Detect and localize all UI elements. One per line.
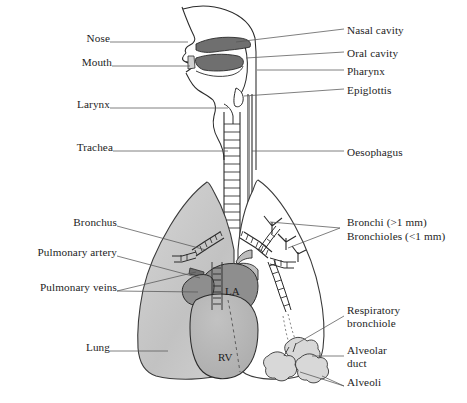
larynx-outline [224, 104, 233, 124]
alveolar-cluster-lower-right [296, 354, 329, 383]
chin-jaw-outline [186, 73, 215, 116]
alveolar-cluster-lower-left [264, 352, 297, 381]
label-nose: Nose [87, 32, 110, 45]
nasal-cavity-shape [196, 37, 251, 52]
leader-alveoli-b [322, 376, 344, 386]
neck-front-outline [213, 116, 224, 160]
epiglottis-shape [234, 88, 243, 107]
label-bronchioles: Bronchioles (<1 mm) [347, 230, 445, 243]
trachea-cartilage-rings [224, 124, 240, 228]
label-bronchus: Bronchus [73, 216, 117, 229]
head-profile-group [182, 6, 256, 170]
right-ventricle-shape [190, 294, 258, 379]
label-alveoli: Alveoli [347, 376, 381, 389]
label-pharynx: Pharynx [347, 65, 385, 78]
respiratory-system-figure: Nose Mouth Larynx Trachea Bronchus Pulmo… [0, 0, 467, 403]
label-pulmonary-artery: Pulmonary artery [37, 246, 117, 259]
teeth-block [188, 56, 195, 69]
label-epiglottis: Epiglottis [347, 84, 392, 97]
nose-bridge-outline [182, 7, 195, 53]
label-respiratory-bronchiole: Respiratory bronchiole [347, 304, 400, 329]
label-trachea: Trachea [77, 141, 113, 154]
label-lung: Lung [86, 341, 110, 354]
label-nasal-cavity: Nasal cavity [347, 24, 404, 37]
label-mouth: Mouth [82, 56, 112, 69]
label-pulmonary-veins: Pulmonary veins [40, 281, 117, 294]
label-bronchi: Bronchi (>1 mm) [347, 216, 427, 229]
anatomy-drawing [0, 0, 467, 403]
label-left-atrium: LA [225, 285, 240, 298]
label-alveolar-duct: Alveolar duct [347, 344, 387, 369]
label-oral-cavity: Oral cavity [347, 47, 398, 60]
label-right-ventricle: RV [218, 351, 233, 364]
label-larynx: Larynx [77, 98, 110, 111]
oral-cavity-shape [195, 54, 243, 71]
label-oesophagus: Oesophagus [347, 146, 403, 159]
leader-oral-cavity [246, 52, 344, 58]
leader-epiglottis [244, 89, 344, 96]
